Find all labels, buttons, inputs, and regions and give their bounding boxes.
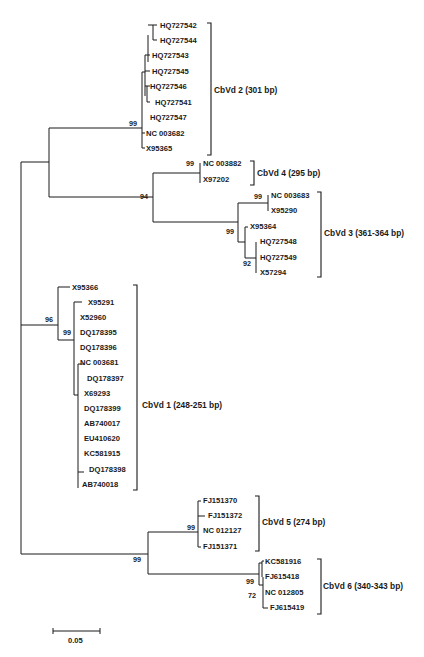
cbvd5-branches	[198, 501, 205, 547]
leaf-label: DQ178396	[80, 343, 117, 352]
leaf-label: KC581915	[84, 449, 121, 458]
leaf-label: HQ727542	[160, 21, 197, 30]
leaf-label: HQ727546	[150, 82, 187, 91]
bootstrap-cbvd1-inner: 99	[63, 328, 71, 337]
leaf-label: DQ178395	[80, 328, 118, 337]
leaf-label: FJ151372	[208, 511, 242, 520]
leaf-label: X69293	[84, 389, 110, 398]
bootstrap-lower: 99	[133, 555, 141, 564]
clade-label-cbvd6: CbVd 6 (340-343 bp)	[323, 581, 403, 591]
bootstrap-cbvd5: 99	[187, 523, 195, 532]
clade-bracket-cbvd4	[250, 161, 254, 185]
bootstrap-cbvd3: 99	[226, 227, 234, 236]
leaf-label: NC 012805	[265, 588, 304, 597]
bootstrap-72: 72	[248, 591, 256, 600]
leaf-label: X95366	[72, 283, 98, 292]
bootstrap-cbvd6: 99	[246, 577, 254, 586]
leaf-label: X52960	[80, 313, 106, 322]
leaf-label: FJ151370	[203, 496, 237, 505]
leaf-label: HQ727543	[152, 51, 189, 60]
leaf-label: X97202	[203, 175, 229, 184]
leaf-label: KC581916	[265, 557, 301, 566]
leaf-label: HQ727547	[150, 113, 187, 122]
clade-label-cbvd5: CbVd 5 (274 bp)	[262, 517, 325, 527]
bootstrap-cbvd4: 99	[186, 159, 194, 168]
clade-label-cbvd1: CbVd 1 (248-251 bp)	[142, 400, 222, 410]
leaf-label: X95365	[146, 144, 173, 153]
leaf-label: HQ727545	[152, 67, 190, 76]
scale-bar	[53, 628, 100, 634]
clade-bracket-cbvd3	[317, 192, 321, 277]
bootstrap-92: 92	[243, 259, 251, 268]
leaf-label: NC 003682	[146, 129, 184, 138]
clade-label-cbvd3: CbVd 3 (361-364 bp)	[324, 228, 404, 238]
scale-bar-label: 0.05	[68, 636, 84, 645]
leaf-label: DQ178397	[87, 374, 124, 383]
bootstrap-cbvd1: 96	[45, 315, 53, 324]
clade-bracket-cbvd2	[207, 23, 211, 155]
clade-label-cbvd2: CbVd 2 (301 bp)	[214, 85, 277, 95]
phylogenetic-tree: 99 94 HQ727542 HQ727544 HQ727543 HQ72754…	[0, 0, 424, 657]
leaf-label: DQ178399	[84, 404, 121, 413]
leaf-label: X95291	[88, 298, 115, 307]
leaf-label: AB740017	[84, 419, 120, 428]
clade-bracket-cbvd6	[317, 559, 321, 614]
leaf-label: NC 012127	[203, 526, 241, 535]
lower-group-branches	[148, 532, 259, 574]
cbvd6-branches	[259, 561, 268, 608]
leaf-label: NC 003683	[271, 191, 309, 200]
leaf-label: FJ615419	[270, 603, 304, 612]
leaf-label: X95364	[250, 222, 277, 231]
leaf-label: X95290	[271, 206, 297, 215]
clade-label-cbvd4: CbVd 4 (295 bp)	[257, 168, 320, 178]
clade-bracket-cbvd5	[255, 496, 259, 551]
leaf-label: HQ727549	[260, 253, 297, 262]
bootstrap-cbvd2: 99	[129, 119, 137, 128]
leaf-label: FJ615418	[265, 572, 299, 581]
leaf-label: NC 003882	[203, 159, 241, 168]
leaf-label: HQ727548	[260, 237, 297, 246]
leaf-label: HQ727544	[160, 36, 198, 45]
leaf-label: X57294	[260, 268, 287, 277]
bootstrap-94: 94	[140, 192, 148, 201]
leaf-label: NC 003681	[80, 358, 119, 367]
leaf-label: HQ727541	[155, 98, 193, 107]
leaf-label: EU410620	[84, 434, 120, 443]
leaf-label: DQ178398	[89, 465, 126, 474]
leaf-label: FJ151371	[203, 542, 238, 551]
clade-bracket-cbvd1	[133, 285, 137, 490]
bootstrap-cbvd3-inner: 99	[254, 192, 262, 201]
leaf-label: AB740018	[82, 480, 118, 489]
